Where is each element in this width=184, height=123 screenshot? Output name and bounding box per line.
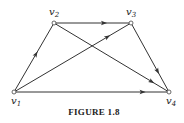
vertex-v3 [129, 21, 133, 25]
vertex-label-v1: v1 [11, 95, 21, 108]
arrowhead-icon [33, 50, 40, 57]
graph-nodes: v1v2v3v4 [11, 6, 176, 108]
vertex-v4 [167, 90, 171, 94]
vertex-label-v2: v2 [49, 6, 60, 19]
arrowhead-icon [154, 68, 161, 75]
figure-caption: FIGURE 1.8 [68, 107, 120, 117]
edge-v1-v3 [14, 23, 131, 92]
graph-edges [14, 21, 169, 94]
vertex-label-v3: v3 [126, 6, 137, 19]
vertex-v2 [52, 21, 56, 25]
arrowhead-icon [104, 33, 111, 40]
edge-v1-v2 [14, 23, 54, 92]
directed-graph-figure: v1v2v3v4 FIGURE 1.8 [0, 0, 184, 123]
arrowhead-icon [148, 78, 155, 85]
vertex-v1 [12, 90, 16, 94]
vertex-label-v4: v4 [166, 95, 176, 108]
